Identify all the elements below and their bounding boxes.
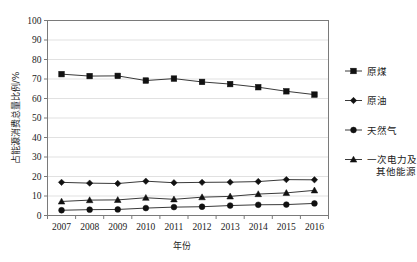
x-tick-label-2010: 2010 bbox=[136, 222, 155, 232]
data-point-原煤-0 bbox=[59, 71, 65, 77]
y-tick-label-70: 70 bbox=[32, 74, 42, 84]
series-line-天然气 bbox=[62, 203, 315, 210]
data-point-原煤-7 bbox=[255, 84, 261, 90]
data-point-原油-4 bbox=[171, 180, 177, 186]
y-tick-label-50: 50 bbox=[32, 113, 42, 123]
y-tick-label-10: 10 bbox=[32, 191, 42, 201]
data-point-天然气-2 bbox=[115, 207, 121, 213]
data-point-原油-3 bbox=[143, 178, 149, 184]
x-axis-title: 年份 bbox=[173, 240, 191, 251]
legend-label-其他能源[interactable]: 其他能源 bbox=[376, 166, 416, 177]
legend-label-一次电力及[interactable]: 一次电力及 bbox=[367, 154, 417, 165]
data-point-原油-9 bbox=[311, 177, 317, 183]
x-tick-label-2014: 2014 bbox=[249, 222, 268, 232]
data-point-原油-2 bbox=[115, 180, 121, 186]
data-point-天然气-9 bbox=[312, 201, 318, 207]
y-tick-label-60: 60 bbox=[32, 94, 42, 104]
legend-label-原煤[interactable]: 原煤 bbox=[367, 66, 387, 77]
data-point-天然气-3 bbox=[143, 205, 149, 211]
data-point-天然气-4 bbox=[171, 204, 177, 210]
data-point-legend-原油-0 bbox=[350, 97, 356, 103]
x-tick-label-2009: 2009 bbox=[108, 222, 127, 232]
y-tick-label-40: 40 bbox=[32, 133, 42, 143]
x-tick-label-2011: 2011 bbox=[165, 222, 184, 232]
y-tick-label-30: 30 bbox=[32, 152, 42, 162]
data-point-原煤-9 bbox=[312, 92, 318, 98]
x-tick-label-2007: 2007 bbox=[52, 222, 71, 232]
data-point-天然气-7 bbox=[255, 202, 261, 208]
x-tick-label-2016: 2016 bbox=[305, 222, 324, 232]
data-point-legend-原煤-0 bbox=[351, 68, 357, 74]
data-point-天然气-5 bbox=[199, 204, 205, 210]
data-point-原油-0 bbox=[58, 179, 64, 185]
data-point-天然气-6 bbox=[227, 203, 233, 209]
data-point-一次电力及其他能源-9 bbox=[311, 187, 318, 193]
x-tick-label-2012: 2012 bbox=[193, 222, 212, 232]
data-point-原油-1 bbox=[86, 180, 92, 186]
legend-label-天然气[interactable]: 天然气 bbox=[367, 125, 397, 136]
x-tick-label-2015: 2015 bbox=[277, 222, 296, 232]
data-point-原煤-5 bbox=[199, 79, 205, 85]
data-point-原煤-6 bbox=[227, 81, 233, 87]
y-tick-label-0: 0 bbox=[37, 211, 42, 221]
legend-label-原油[interactable]: 原油 bbox=[367, 95, 387, 106]
data-point-原油-6 bbox=[227, 179, 233, 185]
data-point-legend-天然气-0 bbox=[351, 127, 357, 133]
y-tick-label-20: 20 bbox=[32, 172, 42, 182]
data-point-原煤-4 bbox=[171, 76, 177, 82]
data-point-天然气-1 bbox=[87, 207, 93, 213]
data-point-原煤-8 bbox=[284, 88, 290, 94]
chart-canvas: 0102030405060708090100200720082009201020… bbox=[0, 0, 417, 262]
y-tick-label-100: 100 bbox=[27, 16, 42, 26]
y-tick-label-90: 90 bbox=[32, 35, 42, 45]
series-line-原油 bbox=[62, 180, 315, 184]
line-chart: 0102030405060708090100200720082009201020… bbox=[0, 0, 417, 262]
data-point-原油-5 bbox=[199, 179, 205, 185]
data-point-天然气-0 bbox=[59, 207, 65, 213]
y-tick-label-80: 80 bbox=[32, 55, 42, 65]
data-point-天然气-8 bbox=[283, 202, 289, 208]
x-tick-label-2008: 2008 bbox=[80, 222, 99, 232]
y-axis-title: 占能源消费总量比例/% bbox=[10, 71, 21, 164]
data-point-原油-8 bbox=[283, 176, 289, 182]
data-point-原煤-1 bbox=[87, 73, 93, 79]
data-point-原煤-2 bbox=[115, 73, 121, 79]
data-point-原煤-3 bbox=[143, 78, 149, 84]
series-line-原煤 bbox=[62, 74, 315, 94]
x-tick-label-2013: 2013 bbox=[221, 222, 240, 232]
data-point-原油-7 bbox=[255, 178, 261, 184]
